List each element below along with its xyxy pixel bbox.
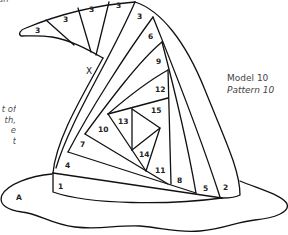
segment-label: 3 [35,26,40,35]
hat-bottom-edge [53,173,222,203]
segment-label: 5 [203,184,208,193]
spiral-line-4 [68,152,196,193]
spiral-line-1 [53,173,222,198]
segment-labels: 3 3 3 3 3 6 9 12 15 13 10 7 14 11 4 8 5 … [35,1,228,193]
segment-label: 3 [89,5,94,14]
segment-label: 8 [177,176,182,185]
hat-crown-line-2 [68,17,153,152]
marker-x: X [86,66,92,76]
segment-label: 1 [58,182,63,191]
spiral-line-14 [132,109,160,150]
segment-label: 3 [137,12,142,21]
segment-label: 4 [65,161,70,170]
hat-right-line-2 [162,42,196,193]
cropped-side-line: t [0,136,16,147]
hat-right-line-3 [168,70,171,184]
cropped-side-line: e [0,125,16,136]
cropped-side-line: th, [0,115,16,126]
segment-label: 2 [223,183,228,192]
segment-label: 12 [155,85,165,94]
model-label: Model 10 [227,72,274,84]
segment-label: 11 [155,166,165,175]
tip-divider-3 [96,2,109,55]
segment-label: 15 [151,106,161,115]
tip-divider-1 [46,20,74,45]
segment-label: 10 [98,125,108,134]
model-caption: Model 10 Pattern 10 [227,72,274,96]
segment-label: 9 [156,57,161,66]
cropped-side-text: t of th, e t [0,104,16,146]
segment-label: 7 [80,140,85,149]
hat-pattern-diagram: 3 3 3 3 3 6 9 12 15 13 10 7 14 11 4 8 5 … [0,0,288,235]
pattern-label: Pattern 10 [227,84,274,96]
cropped-top-text: an [0,0,10,4]
segment-label: 3 [116,1,121,10]
segment-label: 13 [118,117,128,126]
hat-crown-line-1 [56,2,135,168]
segment-label: 6 [148,32,153,41]
marker-a: A [16,193,22,202]
segment-label: 14 [139,150,149,159]
segment-label: 3 [63,15,68,24]
cropped-side-line: t of [0,104,16,115]
